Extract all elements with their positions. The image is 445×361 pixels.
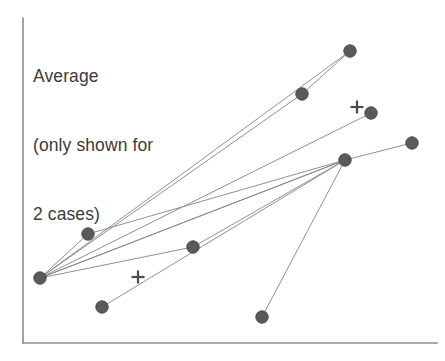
connector-line: [345, 143, 412, 160]
average-cross-marker: [351, 101, 364, 114]
scatter-figure: Average (only shown for 2 cases): [0, 0, 445, 361]
data-point-marker: [256, 311, 268, 323]
data-point-marker: [296, 88, 308, 100]
annotation-line-3: 2 cases): [33, 203, 153, 226]
annotation-line-2: (only shown for: [33, 134, 153, 157]
data-point-marker: [34, 272, 46, 284]
average-cross-marker: [132, 271, 145, 284]
data-point-marker: [406, 137, 418, 149]
data-point-marker: [339, 154, 351, 166]
data-point-marker: [96, 301, 108, 313]
data-point-marker: [365, 107, 377, 119]
data-point-marker: [344, 45, 356, 57]
connector-line: [302, 51, 350, 94]
average-markers-group: [132, 101, 364, 284]
data-point-marker: [187, 241, 199, 253]
annotation-line-1: Average: [33, 65, 153, 88]
average-annotation: Average (only shown for 2 cases): [33, 19, 153, 272]
